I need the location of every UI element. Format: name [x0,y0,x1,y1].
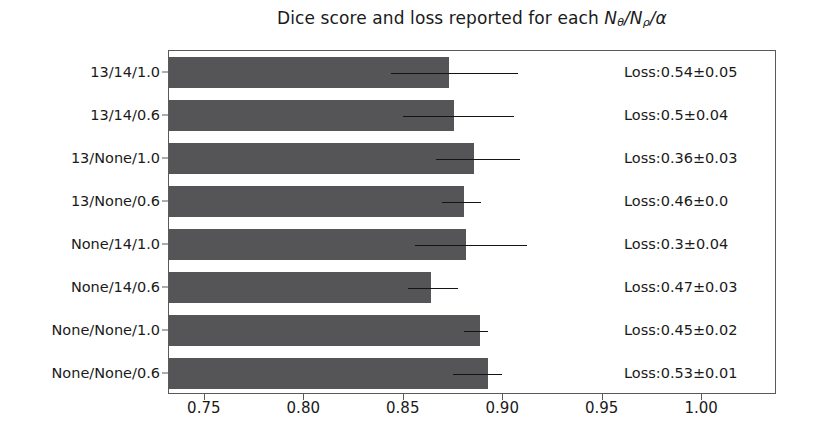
chart-title-alpha: α [656,8,667,28]
loss-annotation: Loss:0.54±0.05 [624,64,737,80]
bar[interactable] [169,358,488,389]
x-axis-tick-label: 0.85 [386,399,419,417]
loss-annotation: Loss:0.53±0.01 [624,365,737,381]
bar[interactable] [169,186,464,217]
y-axis-tick-mark [162,243,168,244]
chart-title-n-theta: Nθ [604,8,624,28]
y-axis-tick-label: 13/14/1.0 [0,64,160,80]
y-axis-tick-mark [162,157,168,158]
theta-subscript: θ [617,16,624,29]
y-axis-tick-mark [162,71,168,72]
loss-annotation: Loss:0.45±0.02 [624,322,737,338]
loss-annotation: Loss:0.47±0.03 [624,279,737,295]
y-axis-tick-label: None/None/0.6 [0,365,160,381]
y-axis-tick-label: 13/None/0.6 [0,193,160,209]
error-bar [436,159,521,160]
x-axis-tick-label: 1.00 [684,399,717,417]
error-bar [464,331,488,332]
bar[interactable] [169,143,474,174]
x-axis-tick-label: 0.95 [585,399,618,417]
y-axis-tick-mark [162,329,168,330]
y-axis-tick-mark [162,286,168,287]
error-bar [415,245,527,246]
rho-subscript: ρ [643,16,650,29]
y-axis-tick-label: 13/14/0.6 [0,107,160,123]
x-axis-tick-label: 0.80 [287,399,320,417]
loss-annotation: Loss:0.5±0.04 [624,107,728,123]
y-axis-tick-label: None/14/0.6 [0,279,160,295]
bar[interactable] [169,272,431,303]
y-axis-tick-mark [162,200,168,201]
bar[interactable] [169,315,480,346]
x-axis-tick-label: 0.90 [486,399,519,417]
y-axis-tick-mark [162,372,168,373]
chart-title-prefix: Dice score and loss reported for each [277,8,604,28]
loss-annotation: Loss:0.36±0.03 [624,150,737,166]
x-axis-tick-label: 0.75 [187,399,220,417]
y-axis-tick-label: None/14/1.0 [0,236,160,252]
loss-annotation: Loss:0.3±0.04 [624,236,728,252]
y-axis-tick-label: 13/None/1.0 [0,150,160,166]
error-bar [403,116,514,117]
error-bar [453,374,503,375]
plot-area [168,50,776,394]
figure: Dice score and loss reported for each Nθ… [0,0,824,445]
error-bar [442,202,482,203]
chart-title: Dice score and loss reported for each Nθ… [168,8,776,29]
y-axis-tick-mark [162,114,168,115]
loss-annotation: Loss:0.46±0.0 [624,193,728,209]
chart-title-n-rho: Nρ [630,8,650,28]
y-axis-tick-label: None/None/1.0 [0,322,160,338]
error-bar [408,288,459,289]
error-bar [391,73,518,74]
